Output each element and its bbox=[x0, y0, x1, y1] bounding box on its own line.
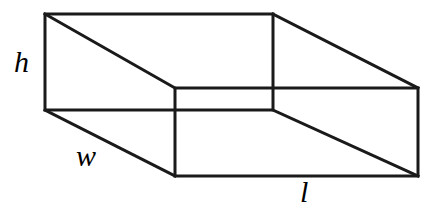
box-diagram-figure: h w l bbox=[0, 0, 438, 210]
height-label: h bbox=[14, 47, 29, 77]
edge-back-top-left-to-front-top-left bbox=[45, 14, 175, 88]
box-wireframe-svg bbox=[0, 0, 438, 210]
edge-back-bottom-right-to-front-bottom-right bbox=[273, 110, 418, 176]
length-label: l bbox=[300, 177, 308, 207]
edge-back-top-right-to-front-top-right bbox=[273, 14, 418, 88]
edge-back-bottom-left-to-front-bottom-left bbox=[45, 110, 175, 176]
back-face bbox=[45, 14, 273, 110]
width-label: w bbox=[76, 141, 96, 171]
front-face bbox=[175, 88, 418, 176]
